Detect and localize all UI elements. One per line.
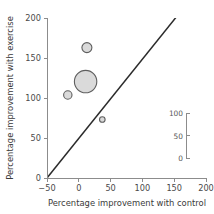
y-tick-label: 0 xyxy=(36,173,41,183)
legend-tick-label: 0 xyxy=(178,154,183,163)
x-axis-title: Percentage improvement with control xyxy=(48,198,206,208)
x-tick-label: 0 xyxy=(76,183,81,193)
data-point-bubble[interactable] xyxy=(82,43,92,53)
y-tick-label: 200 xyxy=(25,13,41,23)
y-tick-label: 150 xyxy=(25,53,41,63)
plot-background xyxy=(0,0,214,214)
x-tick-label: 50 xyxy=(105,183,115,193)
chart-figure: 0 50 100 150 200 −50 0 50 100 150 200 Pe… xyxy=(0,0,214,214)
x-tick-label: 200 xyxy=(198,183,214,193)
data-point-bubble[interactable] xyxy=(64,91,72,99)
scatter-plot-canvas: 0 50 100 150 200 −50 0 50 100 150 200 Pe… xyxy=(0,0,214,214)
x-tick-label: 100 xyxy=(135,183,151,193)
x-tick-label: −50 xyxy=(38,183,55,193)
data-point-bubble[interactable] xyxy=(74,70,96,92)
legend-tick-label: 50 xyxy=(174,132,184,141)
x-tick-label: 150 xyxy=(166,183,182,193)
legend-tick-label: 100 xyxy=(169,109,183,118)
y-tick-label: 50 xyxy=(31,133,41,143)
y-axis-title: Percentage improvement with exercise xyxy=(5,16,15,180)
data-point-bubble[interactable] xyxy=(100,117,106,123)
y-tick-label: 100 xyxy=(25,93,41,103)
